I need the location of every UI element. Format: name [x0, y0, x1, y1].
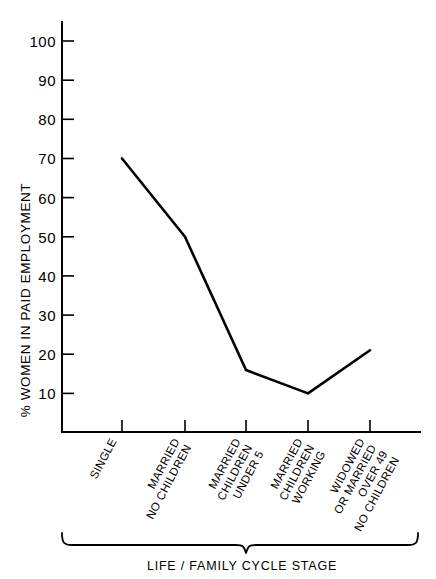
y-tick-label-90: 90 [38, 72, 56, 89]
line-chart-svg: % WOMEN IN PAID EMPLOYMENT 100 90 80 70 … [0, 0, 436, 579]
y-axis-ticks [62, 41, 74, 393]
y-tick-label-50: 50 [38, 229, 56, 246]
y-tick-label-60: 60 [38, 190, 56, 207]
y-tick-label-100: 100 [29, 33, 56, 50]
x-label-single-line1: SINGLE [88, 436, 119, 480]
x-axis-bracket-title: LIFE / FAMILY CYCLE STAGE [147, 559, 337, 573]
y-axis-title: % WOMEN IN PAID EMPLOYMENT [18, 183, 33, 417]
y-tick-label-20: 20 [38, 346, 56, 363]
x-category-labels: SINGLE MARRIED NO CHILDREN MARRIED CHILD… [88, 436, 402, 533]
y-tick-label-40: 40 [38, 268, 56, 285]
chart-figure: % WOMEN IN PAID EMPLOYMENT 100 90 80 70 … [0, 0, 436, 579]
x-axis-bracket [62, 533, 418, 553]
x-axis-ticks [122, 420, 370, 432]
y-tick-label-80: 80 [38, 111, 56, 128]
y-tick-label-10: 10 [38, 385, 56, 402]
y-tick-label-70: 70 [38, 150, 56, 167]
y-tick-label-30: 30 [38, 307, 56, 324]
data-series-line [122, 159, 370, 394]
